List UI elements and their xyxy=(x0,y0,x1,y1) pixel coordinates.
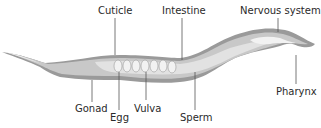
label-cuticle: Cuticle xyxy=(98,5,132,16)
label-nervous-system: Nervous system xyxy=(240,5,321,16)
label-vulva: Vulva xyxy=(134,103,161,114)
label-egg: Egg xyxy=(110,112,129,123)
label-intestine: Intestine xyxy=(162,5,206,16)
label-sperm: Sperm xyxy=(180,112,213,123)
label-pharynx: Pharynx xyxy=(276,86,317,97)
label-gonad: Gonad xyxy=(75,103,108,114)
